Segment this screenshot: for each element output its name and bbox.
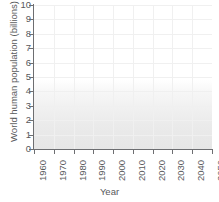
y-tick-mark — [29, 91, 33, 92]
y-axis-spine — [33, 4, 34, 150]
gridline-vertical — [113, 5, 114, 149]
x-tick-label: 2020 — [157, 160, 167, 181]
gridline-vertical — [133, 5, 134, 149]
gridline-horizontal — [34, 135, 212, 136]
gridline-horizontal — [34, 19, 212, 20]
gridline-vertical — [54, 5, 55, 149]
gridline-vertical — [172, 5, 173, 149]
x-tick-label: 2010 — [137, 160, 147, 181]
y-tick-mark — [29, 149, 33, 150]
x-axis-title: Year — [0, 186, 219, 197]
gridline-horizontal — [34, 63, 212, 64]
x-tick-mark — [192, 150, 193, 154]
x-tick-mark — [153, 150, 154, 154]
y-tick-mark — [29, 48, 33, 49]
y-tick-mark — [29, 5, 33, 6]
gridline-horizontal — [34, 91, 212, 92]
x-tick-mark — [133, 150, 134, 154]
y-tick-mark — [29, 34, 33, 35]
x-tick-mark — [74, 150, 75, 154]
x-tick-label: 2040 — [196, 160, 206, 181]
gridline-vertical — [153, 5, 154, 149]
x-tick-label: 1960 — [38, 160, 48, 181]
gridline-vertical — [93, 5, 94, 149]
plot-area — [34, 5, 212, 149]
gridline-horizontal — [34, 77, 212, 78]
gridline-horizontal — [34, 5, 212, 6]
y-tick-mark — [29, 63, 33, 64]
population-line-chart: World human population (billions) 109876… — [0, 0, 219, 202]
y-tick-mark — [29, 77, 33, 78]
gridline-horizontal — [34, 48, 212, 49]
gridline-horizontal — [34, 106, 212, 107]
x-tick-mark — [34, 150, 35, 154]
x-tick-mark — [172, 150, 173, 154]
x-tick-mark — [54, 150, 55, 154]
x-tick-label: 2000 — [117, 160, 127, 181]
gridline-horizontal — [34, 120, 212, 121]
gridline-vertical — [74, 5, 75, 149]
x-tick-label: 1990 — [97, 160, 107, 181]
x-tick-mark — [212, 150, 213, 154]
y-tick-mark — [29, 19, 33, 20]
x-tick-mark — [113, 150, 114, 154]
y-tick-mark — [29, 135, 33, 136]
gridline-vertical — [192, 5, 193, 149]
y-tick-mark — [29, 106, 33, 107]
x-tick-mark — [93, 150, 94, 154]
x-axis-spine — [33, 149, 213, 150]
y-tick-mark — [29, 120, 33, 121]
cut-caption-text — [0, 199, 219, 202]
x-tick-label: 2030 — [176, 160, 186, 181]
x-tick-label: 1980 — [78, 160, 88, 181]
x-tick-label: 2050 — [216, 160, 219, 181]
x-tick-label: 1970 — [58, 160, 68, 181]
gridline-horizontal — [34, 34, 212, 35]
